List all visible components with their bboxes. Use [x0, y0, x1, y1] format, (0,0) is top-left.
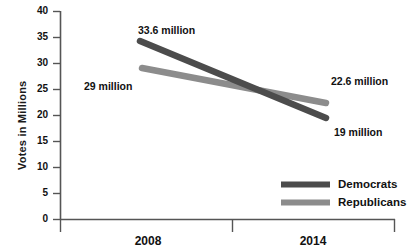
y-tick-label-5: 5	[26, 187, 48, 198]
y-tick-label-15: 15	[26, 135, 48, 146]
legend-label-democrats: Democrats	[338, 178, 397, 190]
legend-label-republicans: Republicans	[338, 196, 406, 208]
chart-container: Votes in Millions 40 35 30 25 20 15 10 5…	[0, 0, 410, 252]
y-tick-label-40: 40	[26, 5, 48, 16]
y-tick-label-30: 30	[26, 57, 48, 68]
y-axis-title: Votes in Millions	[16, 81, 28, 170]
data-label-republicans-2008: 29 million	[84, 80, 132, 92]
data-label-democrats-2008: 33.6 million	[138, 24, 195, 36]
data-label-democrats-2014: 19 million	[334, 126, 382, 138]
y-tick-label-25: 25	[26, 83, 48, 94]
y-tick-label-20: 20	[26, 109, 48, 120]
y-tick-label-0: 0	[26, 213, 48, 224]
y-axis-ticks	[53, 12, 60, 220]
data-label-republicans-2014: 22.6 million	[331, 75, 388, 87]
series-line-republicans	[142, 68, 326, 103]
x-axis-ticks	[61, 219, 395, 232]
series-line-democrats	[140, 41, 326, 118]
y-tick-label-35: 35	[26, 31, 48, 42]
x-tick-label-2008: 2008	[113, 234, 183, 248]
x-tick-label-2014: 2014	[278, 234, 348, 248]
y-tick-label-10: 10	[26, 161, 48, 172]
